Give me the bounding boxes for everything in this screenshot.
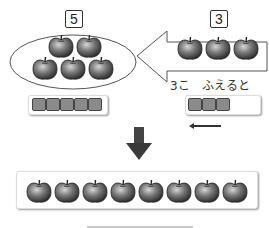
apple-icon bbox=[166, 179, 192, 204]
left-count-label: 5 bbox=[65, 10, 83, 28]
counting-tile bbox=[74, 98, 88, 111]
apple-icon bbox=[233, 36, 259, 61]
counting-tile bbox=[60, 98, 74, 111]
apple-icon bbox=[138, 179, 164, 204]
apple-icon bbox=[205, 36, 231, 61]
counting-tile bbox=[202, 98, 216, 111]
apple-icon bbox=[177, 36, 203, 61]
counting-tile bbox=[216, 98, 230, 111]
apple-icon bbox=[88, 56, 114, 81]
increase-caption: 3こ ふえると bbox=[170, 76, 250, 93]
counting-tile bbox=[188, 98, 202, 111]
right-count-label: 3 bbox=[210, 10, 228, 28]
down-arrow-icon bbox=[126, 127, 152, 161]
apple-icon bbox=[60, 56, 86, 81]
cropped-tile-row bbox=[87, 226, 193, 228]
small-left-arrow-icon bbox=[188, 121, 222, 131]
apple-icon bbox=[26, 179, 52, 204]
apple-icon bbox=[222, 179, 248, 204]
counting-tile bbox=[46, 98, 60, 111]
apple-icon bbox=[194, 179, 220, 204]
apple-icon bbox=[32, 56, 58, 81]
apple-icon bbox=[82, 179, 108, 204]
counting-tile bbox=[32, 98, 46, 111]
apple-icon bbox=[54, 179, 80, 204]
counting-tile bbox=[88, 98, 102, 111]
apple-icon bbox=[110, 179, 136, 204]
